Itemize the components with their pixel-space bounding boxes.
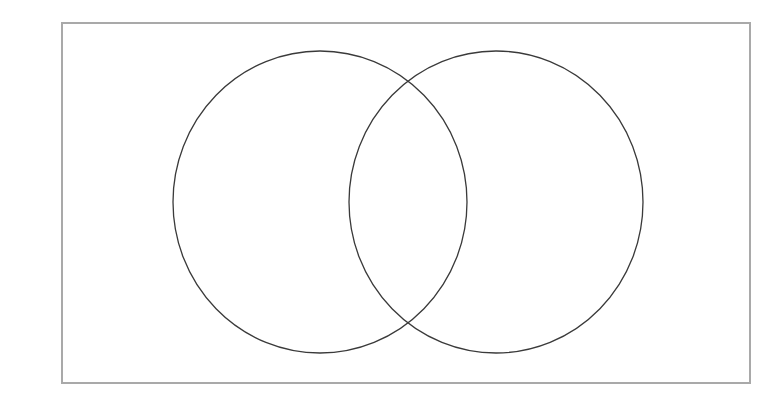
- universal-set-rectangle: [62, 23, 750, 383]
- venn-diagram: [0, 0, 763, 415]
- diagram-canvas: Two-Circle Venn Diagram: [0, 0, 763, 415]
